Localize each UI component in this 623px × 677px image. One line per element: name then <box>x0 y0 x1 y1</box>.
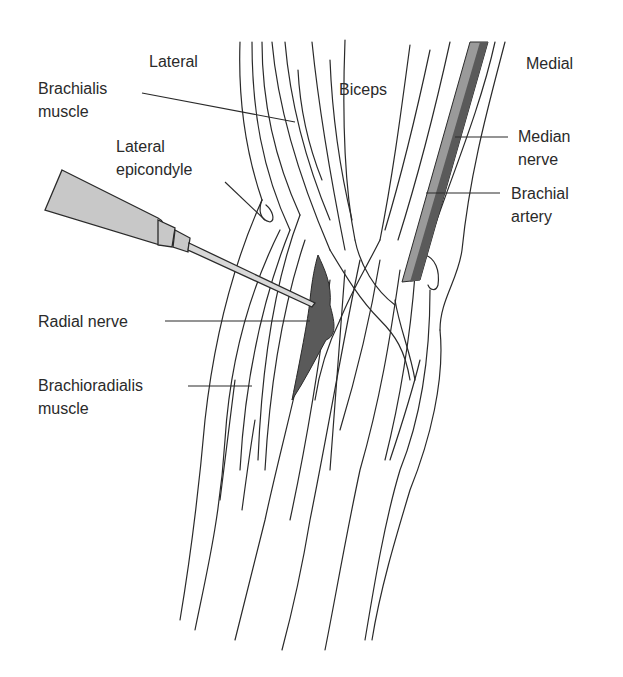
label-medial: Medial <box>526 52 573 75</box>
label-brachioradialis-muscle: Brachioradialis muscle <box>38 374 143 420</box>
label-brachialis-line2: muscle <box>38 100 107 123</box>
label-radial-nerve: Radial nerve <box>38 310 128 333</box>
label-brachioradialis-line1: Brachioradialis <box>38 374 143 397</box>
label-brachial-artery-line1: Brachial <box>511 182 569 205</box>
label-brachioradialis-line2: muscle <box>38 397 143 420</box>
label-median-nerve: Median nerve <box>518 125 570 171</box>
label-lateral: Lateral <box>149 50 198 73</box>
label-brachialis-muscle: Brachialis muscle <box>38 77 107 123</box>
label-brachial-artery-line2: artery <box>511 205 569 228</box>
label-median-nerve-line1: Median <box>518 125 570 148</box>
label-lateral-epicondyle-line2: epicondyle <box>116 158 193 181</box>
label-median-nerve-line2: nerve <box>518 148 570 171</box>
label-lateral-epicondyle: Lateral epicondyle <box>116 135 193 181</box>
label-brachial-artery: Brachial artery <box>511 182 569 228</box>
label-brachialis-line1: Brachialis <box>38 77 107 100</box>
label-lateral-epicondyle-line1: Lateral <box>116 135 193 158</box>
label-biceps: Biceps <box>339 78 387 101</box>
